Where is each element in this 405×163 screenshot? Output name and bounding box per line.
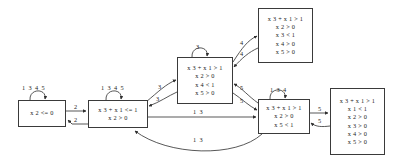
label-n2-to-n5: 1 3 — [193, 108, 204, 115]
constraint-line: x 4 < 1 — [195, 81, 214, 89]
edge-selfloop-n2 — [106, 91, 121, 100]
edge-selfloop-n1 — [30, 91, 45, 100]
constraint-line: x 3 + x 1 > 1 — [340, 97, 376, 105]
constraint-line: x 3 > 0 — [348, 122, 367, 130]
label-n5-to-n6: 5 — [318, 105, 322, 112]
constraint-line: x 3 + x 1 > 1 — [266, 104, 302, 112]
state-x5-lt-1[interactable]: x 3 + x 1 > 1 x 2 > 0 x 5 < 1 — [258, 99, 310, 134]
constraint-line: x 2 > 0 — [348, 113, 367, 121]
label-selfloop-n2: 1 3 4 5 — [101, 84, 125, 91]
constraint-line: x 2 <= 0 — [30, 109, 53, 117]
constraint-line: x 5 > 0 — [195, 89, 214, 97]
label-n3-to-n2: 3 — [156, 95, 160, 102]
label-selfloop-n3: 3 — [196, 43, 200, 50]
edge-n4-to-n3 — [234, 48, 258, 67]
label-selfloop-n1: 1 3 4 5 — [22, 84, 46, 91]
constraint-line: x 5 < 1 — [274, 121, 293, 129]
constraint-line: x 3 + x 1 > 1 — [268, 15, 304, 23]
state-x4-lt-1[interactable]: x 3 + x 1 > 1 x 2 > 0 x 4 < 1 x 5 > 0 — [177, 57, 233, 104]
state-x2-le-0[interactable]: x 2 <= 0 — [18, 100, 66, 127]
label-n5-to-n3: 5 — [240, 84, 244, 91]
edge-n3-to-n5 — [233, 93, 257, 110]
constraint-line: x 1 < 1 — [348, 105, 367, 113]
state-x1-lt-1[interactable]: x 3 + x 1 > 1 x 1 < 1 x 2 > 0 x 3 > 0 x … — [330, 88, 385, 155]
state-x3-lt-1[interactable]: x 3 + x 1 > 1 x 2 > 0 x 3 < 1 x 4 > 0 x … — [258, 8, 313, 63]
label-n6-to-n5: 5 — [318, 117, 322, 124]
label-n3-to-n4: 4 — [240, 39, 244, 46]
constraint-line: x 2 > 0 — [276, 23, 295, 31]
constraint-line: x 2 > 0 — [108, 114, 127, 122]
label-selfloop-n5: 1 3 4 — [270, 86, 287, 93]
label-n2-to-n3: 3 — [158, 83, 162, 90]
constraint-line: x 4 > 0 — [276, 40, 295, 48]
constraint-line: x 3 < 1 — [276, 31, 295, 39]
constraint-line: x 2 > 0 — [195, 72, 214, 80]
diagram-canvas: x 2 <= 0 x 3 + x 1 <= 1 x 2 > 0 x 3 + x … — [0, 0, 405, 163]
edge-n3-to-n4 — [233, 36, 257, 62]
label-n2-to-n1: 2 — [74, 116, 78, 123]
edge-n5-to-n3 — [234, 84, 258, 103]
label-n1-to-n2: 2 — [74, 103, 78, 110]
label-n5-to-n2: 1 3 — [193, 136, 204, 143]
edge-n3-to-n2 — [149, 92, 177, 106]
constraint-line: x 5 > 0 — [348, 138, 367, 146]
constraint-line: x 2 > 0 — [274, 112, 293, 120]
constraint-line: x 5 > 0 — [276, 48, 295, 56]
state-x3-x1-le-1[interactable]: x 3 + x 1 <= 1 x 2 > 0 — [88, 100, 148, 128]
constraint-line: x 4 > 0 — [348, 130, 367, 138]
label-n3-to-n5: 5 — [240, 97, 244, 104]
constraint-line: x 3 + x 1 > 1 — [187, 64, 223, 72]
constraint-line: x 3 + x 1 <= 1 — [98, 106, 137, 114]
label-n4-to-n3: 4 — [240, 50, 244, 57]
